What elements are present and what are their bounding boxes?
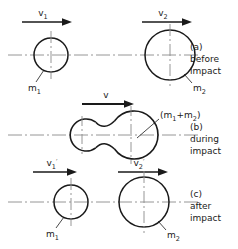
merged-junction-notch-upper [96, 121, 115, 126]
velocity-label-v1-a-sub: 1 [44, 13, 48, 21]
caption-line1-b: during [190, 134, 219, 144]
leader-line-m1-c [56, 217, 64, 228]
mass-label-m2-c: m2 [167, 230, 180, 243]
velocity-label-v2-a: v2 [158, 8, 167, 21]
caption-line2-a: impact [190, 66, 221, 76]
velocity-label-v2-a-sub: 2 [164, 13, 168, 21]
mass-label-m2-c-sub: 2 [176, 235, 180, 243]
velocity-arrow-v2prime-c [118, 168, 168, 176]
velocity-label-v2prime-c: v2′ [134, 158, 145, 171]
caption-tag-b: (b) [190, 122, 203, 132]
velocity-label-v-b: v [103, 90, 109, 100]
velocity-label-v2prime-c-prime: ′ [143, 158, 145, 166]
collision-diagram: v1 v2 m1 m2 (a) before impact [0, 0, 238, 249]
velocity-label-v1-a: v1 [38, 8, 47, 21]
caption-tag-c: (c) [190, 189, 202, 199]
mass-label-m2-a: m2 [193, 83, 206, 96]
velocity-label-v1prime-c: v1′ [47, 158, 58, 171]
mass-label-m1-c-sub: 1 [55, 234, 59, 242]
caption-tag-a: (a) [190, 42, 203, 52]
merged-junction-notch-lower [96, 144, 115, 149]
caption-panel-c: (c) after impact [190, 189, 221, 223]
caption-line1-c: after [190, 201, 212, 211]
mass-label-combined-b: (m1+m2) [160, 110, 200, 123]
caption-line2-b: impact [190, 146, 221, 156]
mass-label-m2-a-sub: 2 [202, 88, 206, 96]
mass-label-m1-c: m1 [46, 229, 59, 242]
caption-line1-a: before [190, 54, 219, 64]
leader-line-m2-c [158, 221, 166, 230]
panel-c-after-impact: v1′ v2′ m1 m2 (c) after impact [8, 158, 221, 243]
panel-a-before-impact: v1 v2 m1 m2 (a) before impact [8, 8, 221, 96]
mass-label-m1-a: m1 [28, 83, 41, 96]
velocity-label-v1prime-c-prime: ′ [56, 158, 58, 166]
mass-label-m1-a-sub: 1 [37, 88, 41, 96]
velocity-arrow-v-b [82, 100, 134, 108]
caption-line2-c: impact [190, 213, 221, 223]
panel-b-during-impact: v (m1+m2) (b) during impact [8, 90, 221, 164]
leader-line-m1-a [36, 70, 44, 82]
caption-panel-b: (b) during impact [190, 122, 221, 156]
caption-panel-a: (a) before impact [190, 42, 221, 76]
